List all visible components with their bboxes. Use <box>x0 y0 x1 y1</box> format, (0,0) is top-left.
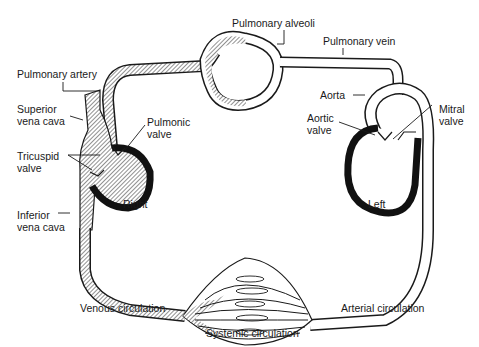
pulmonary-alveoli-arrow <box>277 30 284 44</box>
superior-vena-cava-arrow <box>70 116 83 120</box>
label-inferior-vena-cava: Inferior vena cava <box>17 209 65 233</box>
label-pulmonic-valve: Pulmonic valve <box>147 116 190 140</box>
label-pulmonary-artery: Pulmonary artery <box>17 68 97 80</box>
label-left: Left <box>368 198 386 210</box>
label-systemic-circulation: Systemic circulation <box>206 327 299 339</box>
label-arterial-circulation: Arterial circulation <box>341 302 424 314</box>
pulmonary-alveoli-loop <box>205 36 278 106</box>
pulmonary-artery-arrow <box>63 82 100 91</box>
label-mitral-valve: Mitral valve <box>439 103 465 127</box>
label-aorta: Aorta <box>320 89 345 101</box>
label-pulmonary-vein: Pulmonary vein <box>323 35 395 47</box>
label-right: Right <box>123 198 148 210</box>
label-venous-circulation: Venous circulation <box>80 302 165 314</box>
circulation-diagram <box>0 0 479 347</box>
label-aortic-valve: Aortic valve <box>307 112 334 136</box>
label-tricuspid-valve: Tricuspid valve <box>17 150 59 174</box>
label-superior-vena-cava: Superior vena cava <box>17 103 65 127</box>
pulmonic-valve-arrow <box>125 125 145 150</box>
label-pulmonary-alveoli: Pulmonary alveoli <box>232 17 315 29</box>
